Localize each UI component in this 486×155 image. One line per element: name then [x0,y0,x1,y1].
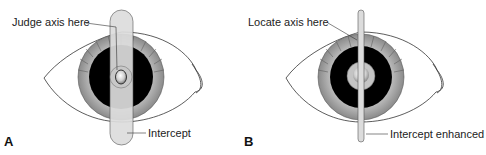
panel-b: Locate axis here Intercept enhanced B [243,0,486,155]
slit-beam-narrow [358,10,364,142]
panel-a: Judge axis here Intercept A [0,0,243,155]
panel-letter-a: A [4,134,13,149]
callout-locate-axis: Locate axis here [248,16,329,28]
callout-intercept: Intercept [148,127,191,139]
callout-judge-axis: Judge axis here [12,16,90,28]
callout-intercept-enhanced: Intercept enhanced [390,128,484,140]
panel-letter-b: B [244,134,253,149]
